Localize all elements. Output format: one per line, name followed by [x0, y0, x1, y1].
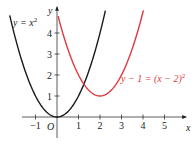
curve-label-shifted-sup: 2: [182, 72, 186, 80]
curve-label-x-squared-text: y = x: [12, 17, 34, 28]
y-axis-label: y: [47, 5, 53, 16]
x-axis-label: x: [185, 122, 191, 133]
x-tick-label: 1: [76, 120, 81, 131]
curve-label-x-squared-sup: 2: [34, 16, 38, 24]
y-tick-label: 4: [47, 28, 52, 39]
curve-label-x-squared: y = x2: [12, 16, 38, 28]
x-tick-label: 3: [119, 120, 124, 131]
y-tick-label: 3: [47, 49, 52, 60]
y-tick-label: 2: [47, 70, 52, 81]
x-tick-label: −1: [30, 120, 41, 131]
chart: −112345 1234 x y O y = x2 y − 1 = (x − 2…: [0, 0, 194, 145]
y-ticks: 1234: [47, 28, 60, 102]
x-tick-label: 2: [98, 120, 103, 131]
origin-label: O: [47, 121, 54, 132]
x-tick-label: 4: [141, 120, 146, 131]
y-tick-label: 1: [47, 91, 52, 102]
curve-label-shifted: y − 1 = (x − 2)2: [120, 72, 186, 85]
curve-label-shifted-text: y − 1 = (x − 2): [120, 73, 182, 85]
x-tick-label: 5: [162, 120, 167, 131]
